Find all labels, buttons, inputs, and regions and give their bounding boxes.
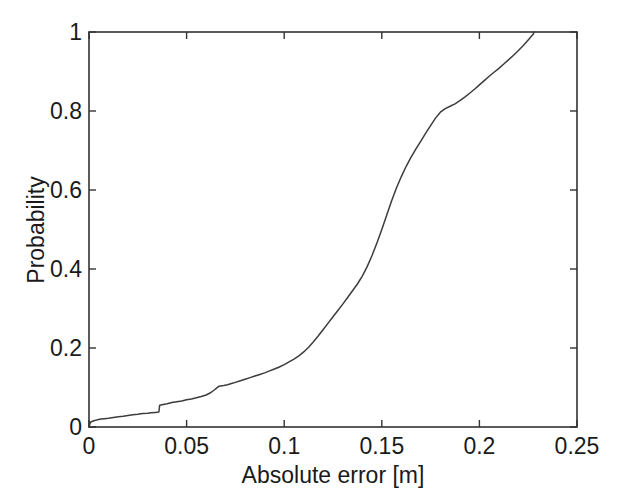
- x-tick-label: 0.2: [463, 435, 495, 458]
- y-tick-label: 0: [69, 416, 82, 439]
- axes-box: [89, 32, 577, 427]
- x-tick-label: 0.15: [359, 435, 404, 458]
- plot-area: [0, 0, 627, 503]
- x-tick-label: 0.1: [268, 435, 300, 458]
- y-tick-label: 0.4: [50, 258, 82, 281]
- figure-canvas: 00.050.10.150.20.25 00.20.40.60.81 Absol…: [0, 0, 627, 503]
- y-tick-label: 1: [69, 21, 82, 44]
- y-tick-label: 0.8: [50, 100, 82, 123]
- x-tick-label: 0.05: [164, 435, 209, 458]
- y-tick-label: 0.6: [50, 179, 82, 202]
- x-axis-title: Absolute error [m]: [242, 464, 425, 487]
- x-tick-label: 0.25: [555, 435, 600, 458]
- y-tick-label: 0.2: [50, 337, 82, 360]
- cdf-curve: [89, 32, 534, 427]
- x-tick-label: 0: [83, 435, 96, 458]
- y-axis-title: Probability: [25, 176, 48, 283]
- tick-marks: [89, 32, 577, 427]
